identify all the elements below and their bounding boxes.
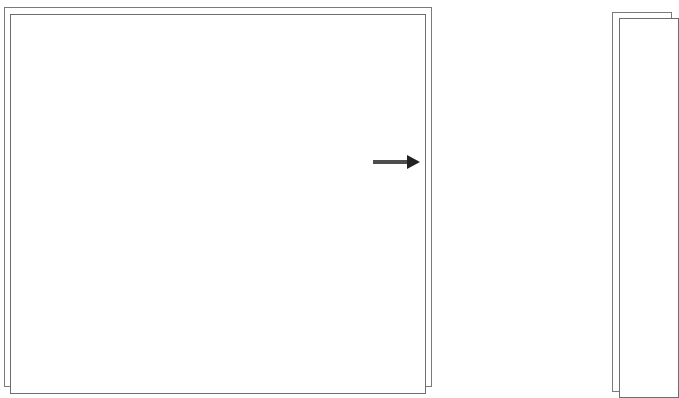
right-panel [619, 18, 679, 398]
arrow-right-icon [373, 154, 421, 170]
left-panel [10, 14, 426, 394]
